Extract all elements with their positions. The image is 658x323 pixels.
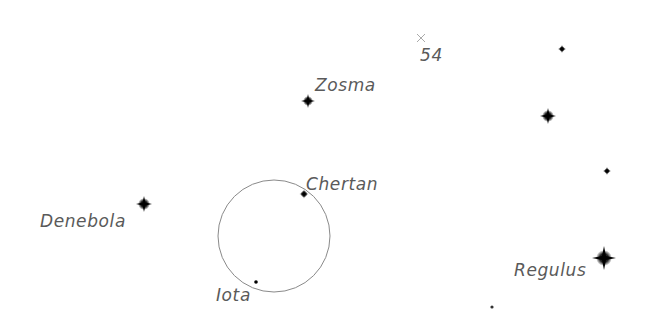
label-denebola: Denebola [40, 213, 126, 230]
star-unnamed-4[interactable] [490, 305, 493, 308]
label-54: 54 [420, 47, 443, 64]
star-unnamed-2[interactable] [540, 108, 556, 124]
star-chart[interactable]: 54 Zosma Chertan Denebola Iota Regulus [0, 0, 658, 323]
star-zosma[interactable] [301, 94, 315, 108]
star-unnamed-3[interactable] [603, 167, 611, 175]
cross-marker-icon [417, 34, 425, 42]
star-regulus[interactable] [592, 246, 616, 270]
label-iota: Iota [216, 287, 251, 304]
field-of-view-circle [218, 180, 330, 292]
label-regulus: Regulus [514, 262, 586, 279]
label-zosma: Zosma [315, 77, 376, 94]
star-unnamed-1[interactable] [558, 45, 566, 53]
star-denebola[interactable] [136, 196, 152, 212]
star-iota[interactable] [254, 280, 258, 284]
label-chertan: Chertan [306, 176, 378, 193]
